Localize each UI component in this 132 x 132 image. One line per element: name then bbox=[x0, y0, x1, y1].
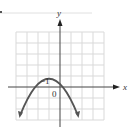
corner-mark bbox=[0, 11, 2, 13]
x-axis-label: x bbox=[122, 82, 127, 92]
graph-figure: y x −1 0 bbox=[0, 0, 132, 132]
y-axis-arrow-icon bbox=[58, 19, 63, 26]
origin-label: 0 bbox=[52, 89, 57, 99]
x-axis-arrow-icon bbox=[113, 85, 120, 90]
tick-label-neg-one: −1 bbox=[40, 76, 50, 86]
y-axis-label: y bbox=[56, 8, 61, 18]
